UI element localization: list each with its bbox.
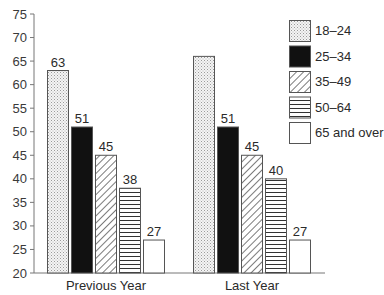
- bar-value-label: 51: [221, 111, 235, 126]
- bar: [120, 188, 141, 273]
- y-tick-label: 35: [13, 195, 27, 210]
- legend-item: 65 and over: [290, 123, 384, 144]
- y-tick-label: 25: [13, 242, 27, 257]
- y-tick-label: 20: [13, 266, 27, 281]
- legend-label: 35–49: [315, 74, 351, 89]
- bar-value-label: 45: [99, 139, 113, 154]
- bar: [194, 56, 215, 273]
- bars: 6351453827Previous Year51454027Last Year: [48, 55, 311, 293]
- bar: [266, 179, 287, 273]
- legend-item: 50–64: [290, 97, 352, 118]
- legend-swatch: [290, 72, 311, 93]
- y-tick-label: 45: [13, 148, 27, 163]
- legend-item: 18–24: [290, 21, 352, 42]
- legend-swatch: [290, 123, 311, 144]
- y-tick-label: 60: [13, 77, 27, 92]
- legend: 18–2425–3435–4950–6465 and over: [290, 21, 384, 144]
- y-tick-label: 30: [13, 218, 27, 233]
- bar-value-label: 27: [293, 224, 307, 239]
- x-category-label: Previous Year: [66, 278, 147, 293]
- bar-value-label: 27: [147, 224, 161, 239]
- legend-item: 35–49: [290, 72, 352, 93]
- bar-value-label: 38: [123, 172, 137, 187]
- legend-item: 25–34: [290, 46, 352, 67]
- legend-label: 65 and over: [315, 125, 384, 140]
- bar-value-label: 45: [245, 139, 259, 154]
- y-tick-label: 40: [13, 171, 27, 186]
- y-tick-label: 65: [13, 54, 27, 69]
- x-category-label: Last Year: [225, 278, 280, 293]
- bar: [218, 127, 239, 273]
- legend-label: 50–64: [315, 100, 351, 115]
- bar-chart: 202530354045505560657075 6351453827Previ…: [0, 0, 384, 295]
- y-tick-label: 50: [13, 124, 27, 139]
- legend-swatch: [290, 21, 311, 42]
- bar-value-label: 63: [51, 55, 65, 70]
- bar: [242, 155, 263, 273]
- y-tick-label: 55: [13, 101, 27, 116]
- bar: [144, 240, 165, 273]
- legend-swatch: [290, 97, 311, 118]
- bar-value-label: 40: [269, 163, 283, 178]
- bar: [48, 71, 69, 273]
- bar: [290, 240, 311, 273]
- legend-label: 25–34: [315, 49, 351, 64]
- bar-value-label: 51: [75, 111, 89, 126]
- bar: [72, 127, 93, 273]
- y-tick-label: 70: [13, 30, 27, 45]
- bar-group-previous-year: 6351453827: [48, 55, 165, 273]
- legend-swatch: [290, 46, 311, 67]
- legend-label: 18–24: [315, 23, 351, 38]
- bar: [96, 155, 117, 273]
- y-tick-label: 75: [13, 7, 27, 22]
